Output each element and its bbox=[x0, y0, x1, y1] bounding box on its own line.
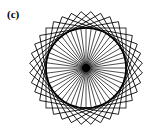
center-hub bbox=[82, 64, 90, 72]
spoke-line bbox=[47, 58, 86, 68]
spoke-line bbox=[86, 58, 125, 68]
spoke-line bbox=[76, 68, 86, 107]
spoke-line bbox=[86, 68, 96, 107]
spoke-line bbox=[86, 29, 96, 68]
circle-spokes-squares-figure bbox=[0, 0, 155, 131]
spoke-line bbox=[76, 29, 86, 68]
spoke-line bbox=[47, 68, 86, 78]
spoke-line bbox=[86, 68, 125, 78]
